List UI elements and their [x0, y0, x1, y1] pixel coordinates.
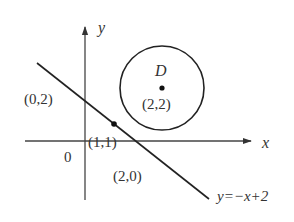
x-axis-label: x: [261, 134, 269, 151]
diagram-canvas: y x 0 D (2,2) (0,2) (1,1) (2,0) y=−x+2: [0, 0, 294, 222]
circle-center-point: [159, 85, 164, 90]
tangent-point: [111, 121, 117, 127]
tangent-point-label: (1,1): [88, 134, 117, 151]
y-axis-label: y: [96, 19, 106, 37]
x-intercept-label: (2,0): [113, 168, 142, 185]
y-intercept-label: (0,2): [24, 91, 53, 108]
diagram-svg: y x 0 D (2,2) (0,2) (1,1) (2,0) y=−x+2: [0, 0, 294, 222]
origin-label: 0: [64, 149, 72, 165]
circle-center-label: (2,2): [142, 96, 171, 113]
circle-label: D: [154, 62, 167, 79]
line-equation-label: y=−x+2: [215, 188, 269, 204]
